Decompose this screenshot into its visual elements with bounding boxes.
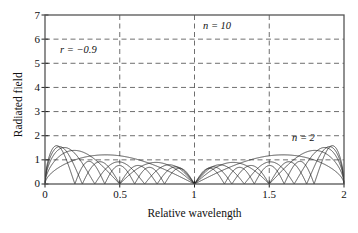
figure-container: 7 6 5 4 3 2 1 0 0 0.5 1 1.5 2 Radiated f… bbox=[0, 0, 358, 233]
y-tick-label-0: 0 bbox=[20, 178, 40, 189]
grid-lines bbox=[45, 15, 344, 184]
x-tick-label-2: 2 bbox=[329, 189, 358, 200]
annotation-n-10: n = 10 bbox=[203, 21, 231, 32]
y-tick-label-6: 6 bbox=[20, 34, 40, 45]
annotation-n-2: n = 2 bbox=[292, 133, 315, 144]
y-axis-label: Radiated field bbox=[13, 45, 25, 165]
annotation-reflectivity: r = −0.9 bbox=[60, 45, 97, 56]
x-axis-label: Relative wavelength bbox=[45, 208, 344, 220]
y-tick-label-7: 7 bbox=[20, 10, 40, 21]
plot-frame bbox=[45, 15, 344, 184]
x-tick-label-0point5: 0.5 bbox=[105, 189, 135, 200]
x-tick-label-0: 0 bbox=[30, 189, 60, 200]
x-tick-label-1point5: 1.5 bbox=[254, 189, 284, 200]
x-tick-label-1: 1 bbox=[179, 189, 209, 200]
